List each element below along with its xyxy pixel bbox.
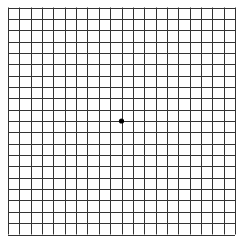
fixation-dot xyxy=(119,118,124,123)
amsler-grid xyxy=(0,0,242,244)
